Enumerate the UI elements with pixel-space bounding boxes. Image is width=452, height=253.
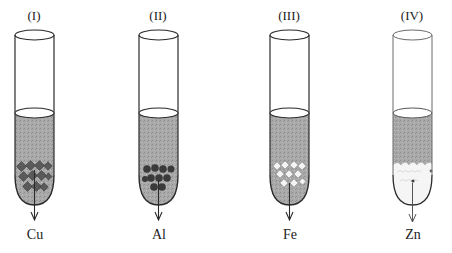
tube-3-numeral: (III) xyxy=(259,8,319,24)
tube-3-metal-label: Fe xyxy=(270,227,310,243)
tube-2-numeral: (II) xyxy=(128,8,188,24)
tube-3 xyxy=(270,30,309,220)
tube-4-metal-label: Zn xyxy=(393,227,433,243)
tube-1-numeral: (I) xyxy=(4,8,64,24)
tube-1 xyxy=(15,30,54,220)
tube-4 xyxy=(393,30,432,222)
tube-2-metal-label: Al xyxy=(139,227,179,243)
tube-1-metal-label: Cu xyxy=(15,227,55,243)
tube-4-numeral: (IV) xyxy=(382,8,442,24)
test-tubes-diagram xyxy=(0,0,452,253)
tube-2 xyxy=(139,30,178,220)
